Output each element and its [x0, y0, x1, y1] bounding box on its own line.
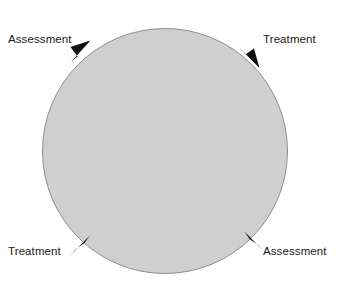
label-treatment-top-right: Treatment	[263, 33, 316, 46]
label-assessment-bottom-right: Assessment	[263, 245, 327, 258]
diagram-canvas: Assessment Treatment Treatment Assessmen…	[0, 0, 338, 299]
cycle-circle	[43, 29, 288, 274]
label-assessment-top-left: Assessment	[8, 33, 72, 46]
label-treatment-bottom-left: Treatment	[8, 245, 61, 258]
